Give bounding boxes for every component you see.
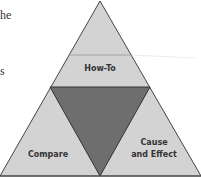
label-compare: Compare [28,150,69,159]
pyramid-diagram: How-To Compare Cause and Effect [0,0,201,177]
label-how-to: How-To [84,64,116,73]
label-cause: Cause [140,138,168,147]
faint-guide-line [132,55,195,58]
label-and-effect: and Effect [131,150,177,159]
